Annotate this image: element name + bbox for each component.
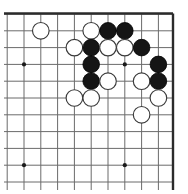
white-stone-c5-r2 <box>100 39 117 56</box>
white-stone-c3-r2 <box>66 39 83 56</box>
black-stone-c5-r1 <box>100 23 117 40</box>
star-point-lower-left <box>22 163 26 167</box>
white-stone-c3-r5 <box>66 90 83 107</box>
white-stone-c6-r2 <box>117 39 134 56</box>
go-board-diagram <box>0 0 188 194</box>
white-stone-c1-r1 <box>33 23 50 40</box>
star-point-lower-right <box>123 163 127 167</box>
white-stone-c7-r4 <box>133 73 150 90</box>
black-stone-c6-r1 <box>117 23 134 40</box>
black-stone-c8-r3 <box>150 56 167 73</box>
white-stone-c5-r4 <box>100 73 117 90</box>
black-stone-c4-r4 <box>83 73 100 90</box>
white-stone-c8-r5 <box>150 90 167 107</box>
white-stone-c4-r1 <box>83 23 100 40</box>
black-stone-c7-r2 <box>133 39 150 56</box>
white-stone-c7-r6 <box>133 107 150 124</box>
star-point-upper-left <box>22 62 26 66</box>
black-stone-c4-r2 <box>83 39 100 56</box>
go-board-canvas <box>0 0 188 194</box>
black-stone-c8-r4 <box>150 73 167 90</box>
black-stone-c4-r3 <box>83 56 100 73</box>
star-point-upper-right <box>123 62 127 66</box>
white-stone-c4-r5 <box>83 90 100 107</box>
